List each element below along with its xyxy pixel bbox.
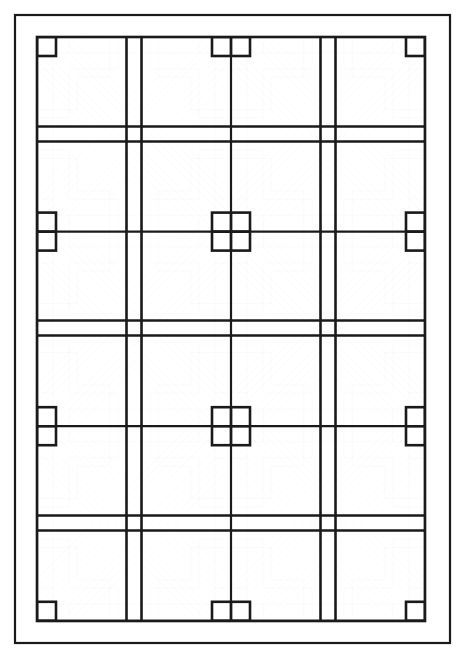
coloring-page bbox=[0, 0, 466, 659]
quilt-artwork bbox=[0, 0, 466, 659]
page-background bbox=[0, 0, 466, 659]
